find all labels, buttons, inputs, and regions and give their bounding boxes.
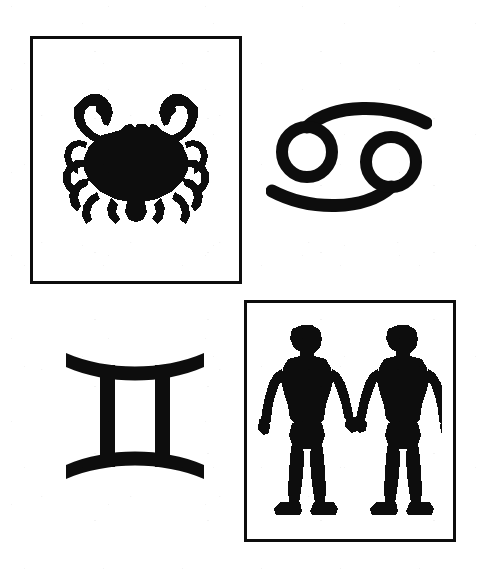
cancer-glyph[interactable] xyxy=(266,92,432,222)
crab-illustration-inner xyxy=(33,39,239,281)
gemini-glyph[interactable] xyxy=(62,345,208,487)
twins-illustration-frame[interactable] xyxy=(244,300,456,542)
twins-illustration-inner xyxy=(247,303,453,539)
twins-icon xyxy=(258,323,442,519)
gemini-symbol-icon xyxy=(62,345,208,487)
cancer-symbol-icon xyxy=(266,92,432,222)
crab-illustration-frame[interactable] xyxy=(30,36,242,284)
zodiac-sheet xyxy=(0,0,485,574)
crab-icon xyxy=(51,80,221,240)
